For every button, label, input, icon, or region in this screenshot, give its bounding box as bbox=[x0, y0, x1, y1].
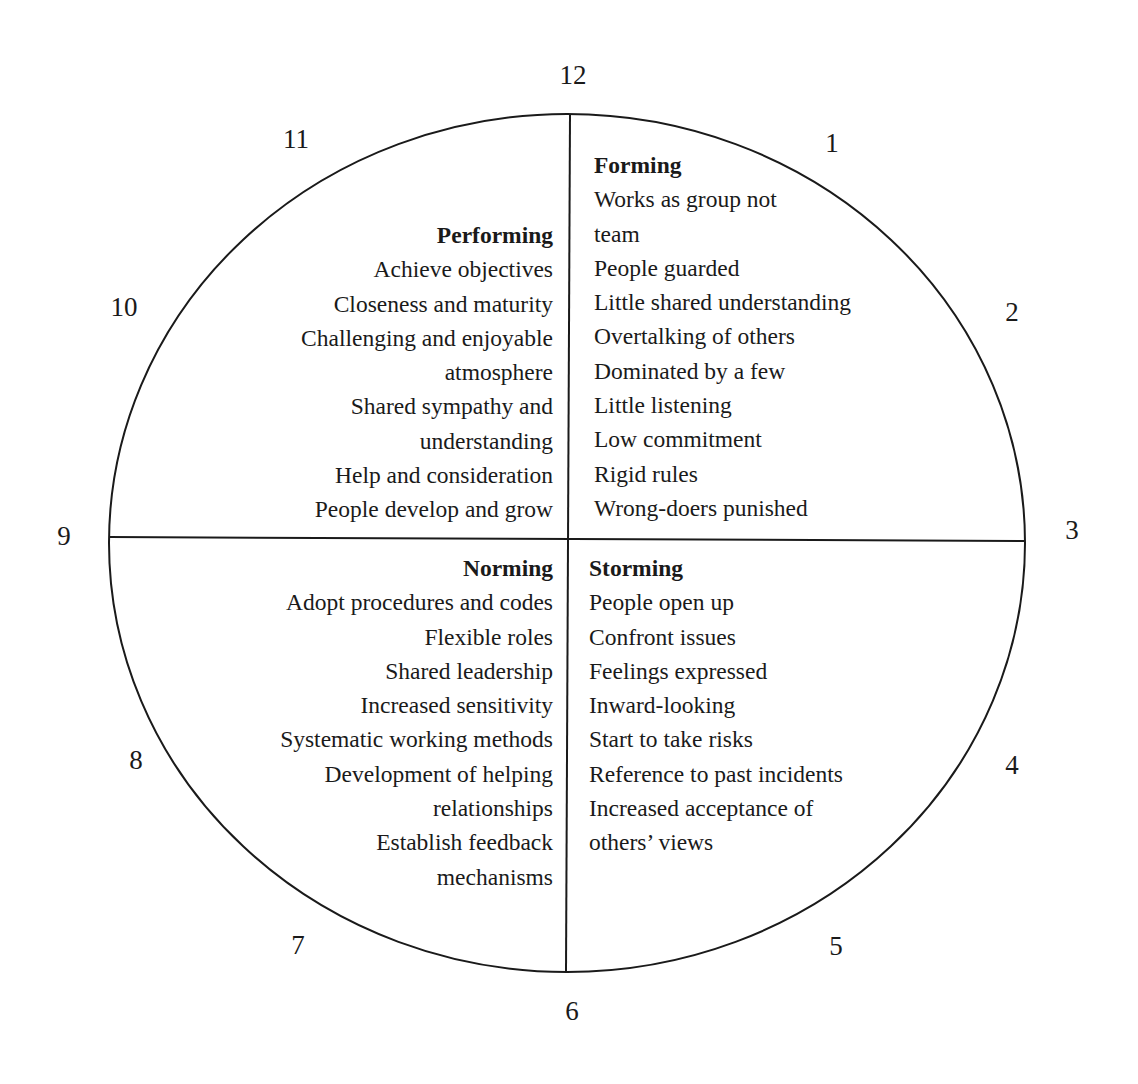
quadrant-performing: Performing Achieve objectives Closeness … bbox=[301, 218, 553, 527]
clock-number: 2 bbox=[1005, 299, 1019, 326]
clock-number: 8 bbox=[129, 747, 143, 774]
vertical-divider bbox=[566, 115, 570, 972]
list-item: Rigid rules bbox=[594, 457, 851, 491]
list-item: Overtalking of others bbox=[594, 319, 851, 353]
list-item: Closeness and maturity bbox=[301, 287, 553, 321]
list-item: Works as group not bbox=[594, 182, 851, 216]
list-item: People develop and grow bbox=[301, 492, 553, 526]
quadrant-title-forming: Forming bbox=[594, 148, 851, 182]
quadrant-norming: Norming Adopt procedures and codes Flexi… bbox=[280, 551, 553, 894]
clock-number: 5 bbox=[829, 933, 843, 960]
list-item: Adopt procedures and codes bbox=[280, 585, 553, 619]
list-item: Reference to past incidents bbox=[589, 757, 843, 791]
horizontal-divider bbox=[109, 537, 1025, 541]
list-item: mechanisms bbox=[280, 860, 553, 894]
list-item: Help and consideration bbox=[301, 458, 553, 492]
list-item: Wrong-doers punished bbox=[594, 491, 851, 525]
list-item: Little listening bbox=[594, 388, 851, 422]
clock-number: 11 bbox=[283, 126, 309, 153]
quadrant-title-storming: Storming bbox=[589, 551, 843, 585]
list-item: Shared sympathy and bbox=[301, 389, 553, 423]
team-development-circle bbox=[0, 0, 1138, 1084]
clock-number: 6 bbox=[565, 998, 579, 1025]
list-item: atmosphere bbox=[301, 355, 553, 389]
quadrant-storming: Storming People open up Confront issues … bbox=[589, 551, 843, 860]
list-item: Achieve objectives bbox=[301, 252, 553, 286]
clock-number: 7 bbox=[291, 932, 305, 959]
list-item: Low commitment bbox=[594, 422, 851, 456]
quadrant-forming: Forming Works as group not team People g… bbox=[594, 148, 851, 525]
quadrant-title-norming: Norming bbox=[280, 551, 553, 585]
clock-number: 12 bbox=[560, 62, 587, 89]
clock-number: 10 bbox=[111, 294, 138, 321]
list-item: Development of helping bbox=[280, 757, 553, 791]
quadrant-title-performing: Performing bbox=[301, 218, 553, 252]
list-item: Systematic working methods bbox=[280, 722, 553, 756]
list-item: relationships bbox=[280, 791, 553, 825]
list-item: Establish feedback bbox=[280, 825, 553, 859]
list-item: Dominated by a few bbox=[594, 354, 851, 388]
list-item: Little shared understanding bbox=[594, 285, 851, 319]
list-item: Challenging and enjoyable bbox=[301, 321, 553, 355]
list-item: People guarded bbox=[594, 251, 851, 285]
list-item: team bbox=[594, 217, 851, 251]
list-item: Feelings expressed bbox=[589, 654, 843, 688]
list-item: Inward-looking bbox=[589, 688, 843, 722]
list-item: Increased sensitivity bbox=[280, 688, 553, 722]
list-item: Flexible roles bbox=[280, 620, 553, 654]
list-item: others’ views bbox=[589, 825, 843, 859]
clock-number: 3 bbox=[1065, 517, 1079, 544]
list-item: understanding bbox=[301, 424, 553, 458]
list-item: Confront issues bbox=[589, 620, 843, 654]
clock-number: 9 bbox=[57, 523, 71, 550]
list-item: People open up bbox=[589, 585, 843, 619]
list-item: Increased acceptance of bbox=[589, 791, 843, 825]
clock-number: 4 bbox=[1005, 752, 1019, 779]
list-item: Start to take risks bbox=[589, 722, 843, 756]
list-item: Shared leadership bbox=[280, 654, 553, 688]
